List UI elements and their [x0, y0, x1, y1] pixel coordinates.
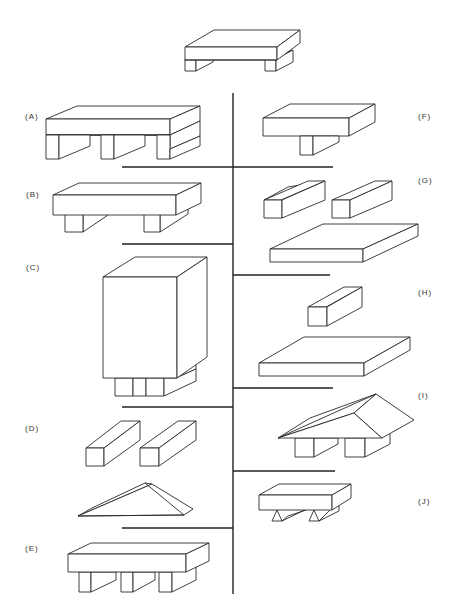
option-c-structure — [103, 257, 207, 396]
target-structure — [185, 30, 300, 71]
label-f: (F) — [418, 112, 431, 121]
option-j-structure — [259, 484, 351, 521]
label-h: (H) — [418, 288, 432, 297]
label-e: (E) — [25, 544, 39, 553]
option-i-structure — [278, 394, 414, 457]
label-a: (A) — [25, 112, 39, 121]
option-d-structure — [78, 421, 196, 516]
diagram-canvas — [0, 0, 458, 614]
option-e-structure — [68, 543, 209, 592]
label-j: (J) — [418, 497, 430, 506]
option-f-structure — [263, 104, 375, 155]
label-c: (C) — [26, 263, 40, 272]
option-h-structure — [259, 287, 410, 376]
option-b-structure — [53, 183, 201, 232]
label-b: (B) — [26, 190, 40, 199]
label-g: (G) — [418, 176, 433, 185]
label-i: (I) — [418, 391, 429, 400]
option-a-structure — [46, 106, 200, 159]
label-d: (D) — [25, 424, 39, 433]
option-g-structure — [264, 181, 418, 262]
